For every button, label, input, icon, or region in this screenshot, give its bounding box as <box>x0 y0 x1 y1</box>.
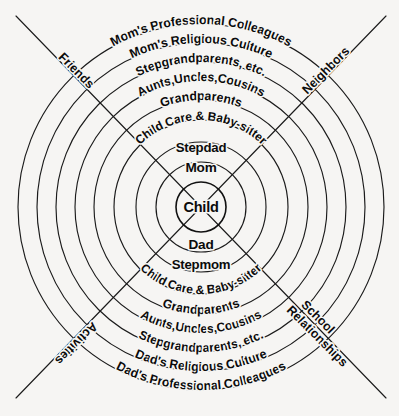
ecomap-diagram: Mom's Professional Colleagues Mom's Reli… <box>0 0 399 416</box>
ecomap-canvas: Mom's Professional Colleagues Mom's Reli… <box>0 0 399 416</box>
core-label-dad: Dad <box>188 237 213 252</box>
core-label-stepdad: Stepdad <box>176 140 227 155</box>
core-label-stepmom: Stepmom <box>172 257 231 272</box>
core-label-mom: Mom <box>185 160 216 175</box>
core-label-child: Child <box>183 199 218 215</box>
